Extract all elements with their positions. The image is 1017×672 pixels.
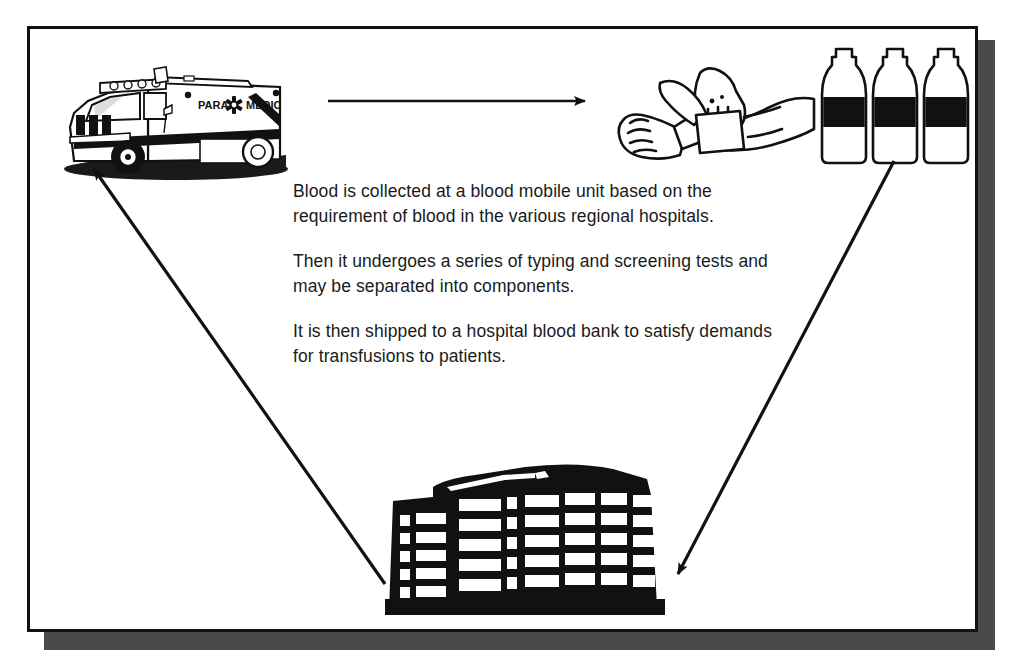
caption-paragraph-1: Blood is collected at a blood mobile uni… bbox=[293, 179, 783, 229]
figure-inner: PARA MEDIC bbox=[30, 29, 975, 629]
caption-block: Blood is collected at a blood mobile uni… bbox=[293, 179, 783, 369]
blood-bottles-icon bbox=[820, 37, 972, 177]
hospital-building-icon bbox=[385, 457, 665, 625]
caption-paragraph-2: Then it undergoes a series of typing and… bbox=[293, 249, 783, 299]
ambulance-label-para: PARA bbox=[198, 99, 228, 111]
ambulance-icon: PARA MEDIC bbox=[48, 43, 298, 188]
ambulance-label-medic: MEDIC bbox=[246, 99, 282, 111]
diagram-page: PARA MEDIC bbox=[0, 0, 1017, 672]
figure-frame: PARA MEDIC bbox=[27, 26, 978, 632]
blood-draw-hands-icon bbox=[608, 57, 818, 177]
caption-paragraph-3: It is then shipped to a hospital blood b… bbox=[293, 319, 783, 369]
